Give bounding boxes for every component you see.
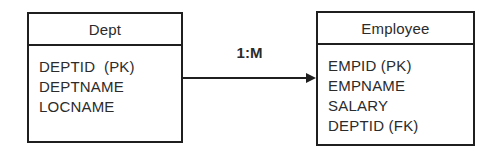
arrowhead-icon (306, 73, 316, 83)
entity-field: LOCNAME (39, 97, 181, 117)
relationship-cardinality-label: 1:M (183, 44, 316, 61)
entity-dept-title: Dept (29, 14, 181, 46)
er-diagram: Dept DEPTID (PK)DEPTNAMELOCNAME 1:M Empl… (0, 0, 495, 156)
entity-field: EMPNAME (328, 76, 473, 96)
entity-field: EMPID (PK) (328, 56, 473, 76)
entity-dept-fields: DEPTID (PK)DEPTNAMELOCNAME (29, 46, 181, 117)
entity-employee-fields: EMPID (PK)EMPNAMESALARYDEPTID (FK) (318, 45, 473, 136)
entity-field: DEPTID (FK) (328, 116, 473, 136)
entity-employee: Employee EMPID (PK)EMPNAMESALARYDEPTID (… (316, 11, 475, 146)
entity-dept: Dept DEPTID (PK)DEPTNAMELOCNAME (27, 12, 183, 143)
entity-employee-title: Employee (318, 13, 473, 45)
relationship-line (183, 77, 309, 79)
entity-field: DEPTNAME (39, 77, 181, 97)
entity-field: SALARY (328, 96, 473, 116)
entity-field: DEPTID (PK) (39, 57, 181, 77)
